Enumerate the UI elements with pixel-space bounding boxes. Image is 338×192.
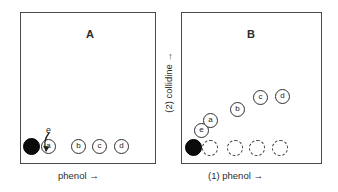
panel-a-spot-d: d bbox=[114, 139, 129, 154]
chromatography-figure: A a b c d e phenol → B bbox=[0, 0, 338, 192]
panel-a-spot-b-label: b bbox=[76, 142, 80, 150]
panel-b-spot-d-label: d bbox=[280, 92, 284, 100]
panel-b-origin-spot bbox=[185, 139, 202, 156]
panel-b-spot-e-label: e bbox=[199, 126, 203, 134]
panel-a-spot-c: c bbox=[92, 139, 107, 154]
panel-b-spot-a-label: a bbox=[208, 116, 212, 124]
panel-b-x-axis-label: (1) phenol → bbox=[208, 170, 263, 181]
panel-b-first-run-ghost-d bbox=[272, 140, 288, 156]
panel-a-x-axis-label: phenol → bbox=[58, 170, 99, 181]
panel-b-plot-area: B e a b c d bbox=[181, 12, 322, 164]
panel-a-spot-c-label: c bbox=[98, 142, 102, 150]
panel-b-spot-a: a bbox=[203, 113, 218, 128]
panel-b-spot-c-label: c bbox=[259, 93, 263, 101]
panel-b-first-run-ghost-b bbox=[227, 140, 243, 156]
panel-a-annotation-label-e: e bbox=[46, 125, 51, 135]
panel-b-spot-b-label: b bbox=[235, 105, 239, 113]
panel-b-spot-c: c bbox=[253, 90, 268, 105]
panel-b-y-axis-label: (2) collidine → bbox=[163, 52, 174, 113]
panel-a-letter: A bbox=[86, 28, 94, 40]
panel-b-first-run-ghost-c bbox=[249, 140, 265, 156]
panel-b-letter: B bbox=[247, 28, 255, 40]
panel-a-spot-d-label: d bbox=[119, 142, 123, 150]
panel-a-spot-b: b bbox=[71, 139, 86, 154]
panel-b-spot-b: b bbox=[230, 102, 245, 117]
panel-b-spot-d: d bbox=[275, 89, 290, 104]
panel-b-first-run-ghost-a bbox=[202, 140, 218, 156]
